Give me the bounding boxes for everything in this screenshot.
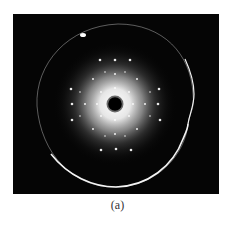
ring-bright-spot (80, 33, 86, 37)
beam-stop (108, 97, 122, 111)
diffraction-pattern-image (13, 14, 219, 194)
diffraction-pattern-graphic (13, 14, 219, 194)
figure-caption: (a) (0, 198, 235, 213)
figure: (a) (0, 0, 235, 231)
